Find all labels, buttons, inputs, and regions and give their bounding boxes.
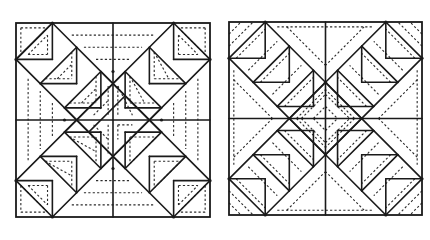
seam-vertex (360, 117, 363, 120)
quilting-line (287, 27, 326, 66)
quilting-line (297, 90, 326, 119)
seam-vertex (384, 20, 387, 23)
seam-line (16, 23, 52, 59)
seam-line (174, 23, 210, 59)
quilting-line (248, 167, 277, 196)
seam-vertex (324, 81, 327, 84)
seam-vertex (264, 213, 267, 216)
seam-line (338, 131, 374, 167)
quilting-line (57, 64, 72, 79)
seam-vertex (227, 57, 230, 60)
seam-line (386, 179, 422, 215)
seam-vertex (208, 58, 211, 61)
seam-line (65, 108, 174, 217)
quilting-line (81, 88, 96, 103)
seam-vertex (51, 21, 54, 24)
seam-line (229, 22, 265, 58)
quilting-line (326, 27, 365, 66)
seam-line (52, 108, 161, 217)
seam-line (65, 132, 101, 168)
seam-vertex (288, 117, 291, 120)
quilting-line (229, 22, 253, 46)
seam-line (362, 155, 398, 191)
quilting-line (379, 119, 418, 158)
seam-vertex (14, 179, 17, 182)
seam-line (362, 46, 398, 82)
quilt-block-right (227, 20, 424, 217)
seam-line (174, 181, 210, 217)
seam-line (125, 132, 161, 168)
seam-line (253, 155, 289, 191)
seam-vertex (324, 153, 327, 156)
seam-vertex (227, 177, 230, 180)
seam-vertex (160, 118, 163, 121)
quilting-line (326, 106, 338, 118)
seam-line (277, 131, 313, 167)
seam-line (149, 47, 185, 83)
quilting-line (248, 41, 277, 70)
quilting-line (326, 119, 355, 148)
seam-vertex (420, 177, 423, 180)
seam-line (40, 156, 76, 192)
seam-line (386, 22, 422, 58)
seam-vertex (420, 57, 423, 60)
seam-vertex (208, 179, 211, 182)
quilting-line (272, 143, 301, 172)
quilt-block-right-drawing (227, 20, 424, 217)
seam-line (125, 72, 161, 108)
quilting-line (374, 41, 403, 70)
quilting-line (297, 119, 326, 148)
quilting-line (229, 203, 241, 215)
quilting-line (234, 80, 273, 119)
quilting-line (386, 179, 415, 208)
seam-vertex (51, 215, 54, 218)
quilting-line (326, 172, 365, 211)
quilting-line (398, 22, 422, 46)
quilting-line (229, 191, 253, 215)
quilting-line (287, 172, 326, 211)
quilting-line (326, 90, 355, 119)
quilting-line (398, 191, 422, 215)
quilting-line (236, 29, 265, 58)
seam-line (277, 70, 313, 106)
quilting-line (410, 203, 422, 215)
seam-vertex (14, 58, 17, 61)
seam-line (101, 72, 210, 181)
seam-line (253, 46, 289, 82)
quilt-block-left (14, 21, 212, 219)
seam-vertex (111, 70, 114, 73)
quilting-line (350, 65, 379, 94)
quilting-line (229, 22, 241, 34)
seam-vertex (63, 118, 66, 121)
quilting-line (313, 106, 325, 118)
quilting-line (272, 65, 301, 94)
quilting-line (236, 179, 265, 208)
quilting-line (386, 29, 415, 58)
quilting-line (350, 143, 379, 172)
quilting-line (410, 22, 422, 34)
seam-line (149, 156, 185, 192)
seam-vertex (384, 213, 387, 216)
seam-line (338, 70, 374, 106)
quilt-block-left-drawing (14, 21, 212, 219)
seam-line (229, 179, 265, 215)
seam-vertex (111, 167, 114, 170)
quilting-line (234, 119, 273, 158)
seam-vertex (172, 21, 175, 24)
quilting-line (313, 119, 325, 131)
seam-vertex (264, 20, 267, 23)
quilting-line (374, 167, 403, 196)
quilting-line (379, 80, 418, 119)
quilting-line (326, 119, 338, 131)
seam-line (16, 181, 52, 217)
seam-line (16, 72, 125, 181)
seam-vertex (172, 215, 175, 218)
